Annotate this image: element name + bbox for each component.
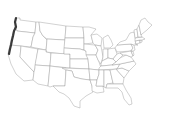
state-rhode-island [140, 40, 142, 43]
us-map [0, 0, 174, 121]
state-colorado [50, 53, 70, 68]
state-wisconsin [91, 34, 102, 46]
state-michigan [103, 35, 113, 48]
state-north-dakota [65, 26, 84, 38]
state-new-mexico [48, 66, 66, 87]
state-washington [15, 18, 36, 33]
state-wyoming [46, 39, 65, 54]
states [8, 18, 152, 108]
state-pennsylvania [115, 44, 133, 52]
state-kansas [70, 59, 89, 69]
state-maine [139, 18, 152, 35]
state-florida [106, 84, 132, 105]
state-arizona [33, 65, 50, 86]
